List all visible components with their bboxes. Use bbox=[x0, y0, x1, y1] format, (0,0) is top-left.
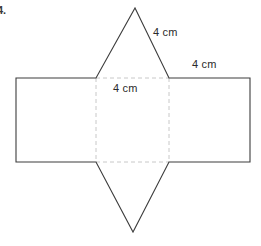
dimension-label-center-face: 4 cm bbox=[113, 82, 138, 95]
geometric-net-diagram bbox=[0, 0, 261, 246]
net-fill bbox=[16, 8, 250, 232]
dimension-label-top-edge: 4 cm bbox=[192, 58, 217, 71]
item-number: 4. bbox=[0, 4, 6, 16]
dimension-label-slant-edge: 4 cm bbox=[153, 26, 178, 39]
net-figure-container: 4. 4 cm 4 cm 4 cm bbox=[0, 0, 261, 246]
